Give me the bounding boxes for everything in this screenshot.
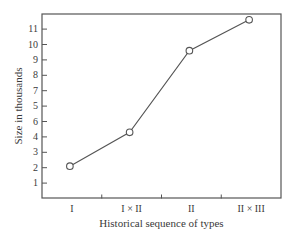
line-chart: 1234657891011 II × IIIIII × III Historic…	[0, 0, 291, 235]
y-tick-label: 11	[18, 24, 38, 34]
y-tick-label: 3	[18, 147, 38, 157]
y-axis-label: Size in thousands	[13, 68, 24, 145]
y-tick-label: 2	[18, 163, 38, 173]
plot-frame	[42, 14, 281, 198]
x-axis-label: Historical sequence of types	[42, 218, 281, 229]
y-tick-label: 10	[18, 40, 38, 50]
data-point-marker	[246, 17, 253, 24]
x-category-label: II	[161, 204, 221, 214]
x-category-label: I	[42, 204, 102, 214]
data-point-marker	[126, 129, 133, 136]
y-tick-label: 9	[18, 55, 38, 65]
x-category-label: I × II	[102, 204, 162, 214]
x-category-label: II × III	[221, 204, 281, 214]
y-axis-ticks	[42, 29, 47, 183]
series-line	[70, 20, 249, 166]
data-point-marker	[186, 47, 193, 54]
data-markers	[67, 17, 253, 170]
plot-area	[0, 0, 291, 235]
data-point-marker	[67, 163, 74, 170]
y-tick-label: 1	[18, 178, 38, 188]
